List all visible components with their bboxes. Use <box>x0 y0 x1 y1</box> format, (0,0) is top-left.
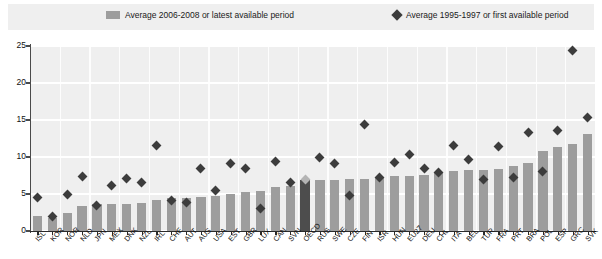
marker-EU27 <box>404 150 414 160</box>
y-tick-label-25: 25 <box>10 41 26 50</box>
chart-root: Average 2006-2008 or latest available pe… <box>0 0 602 259</box>
y-tick-mark <box>26 230 30 231</box>
bar-CHL <box>434 173 443 231</box>
bar-BEL <box>464 170 473 231</box>
bar-SWE <box>330 180 339 231</box>
marker-DEU <box>419 164 429 174</box>
gridline-vertical <box>595 46 596 231</box>
marker-NZL <box>137 178 147 188</box>
bar-HUN <box>390 176 399 231</box>
gridline-vertical <box>536 46 537 231</box>
legend-label-bar-series: Average 2006-2008 or latest available pe… <box>125 11 294 20</box>
y-tick-label-10: 10 <box>10 152 26 161</box>
bar-ISR <box>375 178 384 231</box>
bar-DEU <box>419 175 428 231</box>
gridline-vertical <box>89 46 90 231</box>
bar-IRL <box>152 200 161 231</box>
bar-NZL <box>137 203 146 231</box>
gridline-horizontal <box>30 119 595 120</box>
marker-FRA <box>493 142 503 152</box>
gridline-vertical <box>565 46 566 231</box>
bar-USA <box>211 196 220 231</box>
bar-FRA <box>494 169 503 231</box>
gridline-vertical <box>327 46 328 231</box>
y-axis-line <box>30 44 31 233</box>
marker-DNK <box>122 174 132 184</box>
marker-RUS <box>315 153 325 163</box>
marker-ITA <box>449 140 459 150</box>
bar-NLD <box>77 206 86 231</box>
bar-SVN <box>286 186 295 231</box>
gridline-vertical <box>60 46 61 231</box>
bar-BRA <box>523 163 532 231</box>
gridline-vertical <box>476 46 477 231</box>
marker-IRL <box>151 140 161 150</box>
marker-EST <box>226 159 236 169</box>
marker-SWE <box>330 159 340 169</box>
marker-FIN <box>360 119 370 129</box>
bar-swatch-icon <box>106 11 120 19</box>
bar-ITA <box>449 171 458 231</box>
marker-CAN <box>270 156 280 166</box>
marker-HUN <box>389 158 399 168</box>
marker-NOR <box>62 190 72 200</box>
marker-NLD <box>77 172 87 182</box>
gridline-vertical <box>208 46 209 231</box>
diamond-swatch-icon <box>391 10 402 21</box>
bar-OECD <box>300 180 309 231</box>
bar-ESP <box>553 147 562 231</box>
y-tick-mark <box>26 193 30 194</box>
bar-EU27 <box>405 176 414 232</box>
bar-FIN <box>360 179 369 231</box>
y-tick-label-15: 15 <box>10 115 26 124</box>
y-tick-mark <box>26 45 30 46</box>
gridline-vertical <box>238 46 239 231</box>
plot-area <box>30 46 595 231</box>
y-tick-mark <box>26 119 30 120</box>
legend-entry-diamond-series: Average 1995-1997 or first available per… <box>393 11 568 20</box>
y-tick-label-5: 5 <box>10 189 26 198</box>
bar-GRC <box>568 144 577 231</box>
bar-CZE <box>345 179 354 231</box>
gridline-vertical <box>357 46 358 231</box>
legend-entry-bar-series: Average 2006-2008 or latest available pe… <box>106 11 294 20</box>
gridline-vertical <box>446 46 447 231</box>
bar-CAN <box>271 187 280 231</box>
marker-GRC <box>568 45 578 55</box>
bar-AUS <box>196 197 205 231</box>
legend-label-diamond-series: Average 1995-1997 or first available per… <box>406 11 568 20</box>
gridline-vertical <box>506 46 507 231</box>
marker-AUS <box>196 164 206 174</box>
marker-ESP <box>553 125 563 135</box>
gridline-vertical <box>298 46 299 231</box>
y-tick-label-0: 0 <box>10 226 26 235</box>
marker-MEX <box>107 181 117 191</box>
y-tick-mark <box>26 156 30 157</box>
chart-legend: Average 2006-2008 or latest available pe… <box>8 4 594 30</box>
gridline-vertical <box>149 46 150 231</box>
bar-POL <box>538 151 547 231</box>
y-tick-mark <box>26 82 30 83</box>
gridline-horizontal <box>30 156 595 157</box>
bar-SVK <box>583 134 592 231</box>
gridline-vertical <box>387 46 388 231</box>
y-tick-label-20: 20 <box>10 78 26 87</box>
marker-GBR <box>241 164 251 174</box>
marker-BRA <box>523 128 533 138</box>
gridline-horizontal <box>30 45 595 46</box>
bar-GBR <box>241 192 250 231</box>
gridline-vertical <box>268 46 269 231</box>
bar-EST <box>226 194 235 231</box>
gridline-vertical <box>179 46 180 231</box>
gridline-horizontal <box>30 82 595 83</box>
gridline-vertical <box>417 46 418 231</box>
gridline-vertical <box>119 46 120 231</box>
